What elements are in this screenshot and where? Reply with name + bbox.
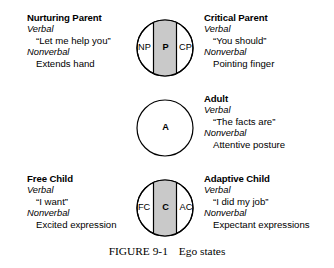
adult-verbal-label: Verbal	[204, 105, 285, 117]
free-child-text-block: Free Child Verbal “I want” Nonverbal Exc…	[27, 173, 117, 231]
free-child-verbal-label: Verbal	[27, 185, 117, 197]
adult-text-block: Adult Verbal “The facts are” Nonverbal A…	[204, 93, 285, 151]
figure-caption-title: Ego states	[179, 245, 226, 257]
adult-nonverbal-label: Nonverbal	[204, 128, 285, 140]
nurturing-parent-nonverbal-value: Extends hand	[27, 58, 111, 70]
adult-nonverbal-value: Attentive posture	[204, 139, 285, 151]
free-child-nonverbal-label: Nonverbal	[27, 208, 117, 220]
free-child-title: Free Child	[27, 173, 117, 185]
nurturing-parent-verbal-label: Verbal	[27, 24, 111, 36]
child-ego-state-circle: FC C AC	[136, 179, 194, 237]
critical-parent-text-block: Critical Parent Verbal “You should” Nonv…	[204, 12, 274, 70]
figure-caption-label: FIGURE 9-1	[109, 245, 168, 257]
critical-parent-verbal-label: Verbal	[204, 24, 274, 36]
critical-parent-nonverbal-value: Pointing finger	[204, 58, 274, 70]
parent-ego-state-circle: NP P CP	[136, 19, 194, 77]
nurturing-parent-text-block: Nurturing Parent Verbal “Let me help you…	[27, 12, 111, 70]
child-left-letter: FC	[134, 202, 154, 212]
adaptive-child-text-block: Adaptive Child Verbal “I did my job” Non…	[204, 173, 310, 231]
nurturing-parent-nonverbal-label: Nonverbal	[27, 47, 111, 59]
parent-left-letter: NP	[135, 42, 154, 52]
adaptive-child-nonverbal-label: Nonverbal	[204, 208, 310, 220]
critical-parent-title: Critical Parent	[204, 12, 274, 24]
child-right-letter: AC	[176, 202, 196, 212]
child-center-letter: C	[154, 202, 177, 212]
critical-parent-nonverbal-label: Nonverbal	[204, 47, 274, 59]
adaptive-child-verbal-value: “I did my job”	[204, 196, 310, 208]
figure-caption: FIGURE 9-1Ego states	[0, 245, 334, 257]
adult-center-letter: A	[154, 122, 177, 132]
adult-ego-state-circle: A	[136, 99, 194, 157]
adult-title: Adult	[204, 93, 285, 105]
nurturing-parent-verbal-value: “Let me help you”	[27, 35, 111, 47]
parent-center-letter: P	[154, 42, 177, 52]
adaptive-child-title: Adaptive Child	[204, 173, 310, 185]
adaptive-child-nonverbal-value: Expectant expressions	[204, 219, 310, 231]
free-child-verbal-value: “I want”	[27, 196, 117, 208]
adult-verbal-value: “The facts are”	[204, 116, 285, 128]
ego-states-figure: Nurturing Parent Verbal “Let me help you…	[0, 0, 334, 268]
critical-parent-verbal-value: “You should”	[204, 35, 274, 47]
parent-right-letter: CP	[176, 42, 195, 52]
adaptive-child-verbal-label: Verbal	[204, 185, 310, 197]
nurturing-parent-title: Nurturing Parent	[27, 12, 111, 24]
free-child-nonverbal-value: Excited expression	[27, 219, 117, 231]
